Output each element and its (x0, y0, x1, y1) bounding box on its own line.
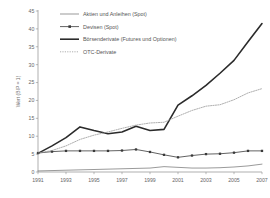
data-point (163, 154, 165, 156)
legend-item-3[interactable]: OTC-Derivate (60, 49, 116, 55)
y-tick-label: 30 (29, 62, 35, 68)
x-axis-ticks: 199119931995199719992001200320052007 (32, 172, 268, 183)
x-tick-label: 1997 (116, 177, 128, 183)
y-tick-label: 45 (29, 8, 35, 14)
data-point (135, 148, 137, 150)
y-tick-label: 20 (29, 97, 35, 103)
series-2 (38, 24, 262, 154)
x-tick-label: 2007 (256, 177, 268, 183)
y-tick-label: 25 (29, 79, 35, 85)
series-0 (38, 164, 262, 171)
y-axis-ticks: 051015202530354045 (29, 8, 38, 175)
series-1 (37, 148, 263, 158)
data-point (191, 154, 193, 156)
data-point (233, 152, 235, 154)
y-tick-label: 35 (29, 44, 35, 50)
y-tick-label: 10 (29, 133, 35, 139)
legend-label: Devisen (Spot) (83, 24, 119, 30)
series-line (38, 24, 262, 154)
series-line (38, 89, 262, 153)
data-point (247, 150, 249, 152)
series-line (38, 149, 262, 157)
data-point (65, 150, 67, 152)
data-point (205, 153, 207, 155)
legend-label: OTC-Derivate (83, 49, 116, 55)
series-layer (37, 24, 263, 171)
data-point (177, 156, 179, 158)
data-point (79, 150, 81, 152)
x-tick-label: 2005 (228, 177, 240, 183)
data-point (261, 150, 263, 152)
chart-legend: Aktien und Anleihen (Spot)Devisen (Spot)… (60, 11, 177, 55)
series-line (38, 164, 262, 171)
x-tick-label: 2003 (200, 177, 212, 183)
x-tick-label: 2001 (172, 177, 184, 183)
y-tick-label: 40 (29, 26, 35, 32)
x-tick-label: 1995 (88, 177, 100, 183)
data-point (219, 153, 221, 155)
data-point (121, 149, 123, 151)
x-tick-label: 1991 (32, 177, 44, 183)
y-tick-label: 0 (32, 169, 35, 175)
y-tick-label: 5 (32, 151, 35, 157)
legend-label: Börsenderivate (Futures und Optionen) (83, 36, 177, 42)
legend-item-1[interactable]: Devisen (Spot) (60, 24, 119, 30)
x-tick-label: 1999 (144, 177, 156, 183)
legend-item-2[interactable]: Börsenderivate (Futures und Optionen) (60, 36, 177, 42)
data-point (107, 150, 109, 152)
y-tick-label: 15 (29, 115, 35, 121)
data-point (93, 150, 95, 152)
legend-label: Aktien und Anleihen (Spot) (83, 11, 147, 17)
series-3 (38, 89, 262, 153)
legend-item-0[interactable]: Aktien und Anleihen (Spot) (60, 11, 147, 17)
chart-container: 051015202530354045 199119931995199719992… (0, 0, 270, 198)
y-axis-title: Wert (BIP = 1) (15, 75, 21, 107)
line-chart: 051015202530354045 199119931995199719992… (0, 0, 270, 198)
data-point (149, 151, 151, 153)
x-tick-label: 1993 (60, 177, 72, 183)
legend-marker (68, 25, 71, 28)
